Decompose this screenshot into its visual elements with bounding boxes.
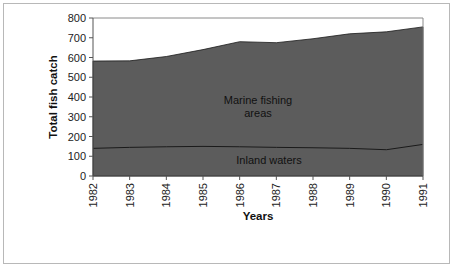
y-tick-label: 800	[68, 12, 86, 24]
x-tick-label: 1982	[87, 183, 99, 207]
marine-area-label-line2: areas	[244, 107, 272, 119]
x-axis-title: Years	[243, 210, 274, 222]
y-tick-label: 400	[68, 91, 86, 103]
x-tick-label: 1984	[160, 183, 172, 207]
x-tick-label: 1987	[270, 183, 282, 207]
y-tick-label: 200	[68, 131, 86, 143]
x-tick-label: 1990	[380, 183, 392, 207]
inland-area-label: Inland waters	[236, 154, 302, 166]
y-axis: 0100200300400500600700800	[68, 12, 93, 182]
y-tick-label: 100	[68, 150, 86, 162]
marine-area-label-line1: Marine fishing	[224, 94, 292, 106]
x-tick-label: 1985	[197, 183, 209, 207]
y-tick-label: 600	[68, 52, 86, 64]
y-tick-label: 500	[68, 71, 86, 83]
x-tick-label: 1988	[307, 183, 319, 207]
y-axis-title: Total fish catch	[47, 55, 59, 139]
y-tick-label: 0	[80, 170, 86, 182]
stacked-area-chart: 0100200300400500600700800 19821983198419…	[0, 0, 456, 272]
x-tick-label: 1989	[344, 183, 356, 207]
y-tick-label: 300	[68, 111, 86, 123]
x-axis: 1982198319841985198619871988198919901991	[87, 176, 429, 207]
y-tick-label: 700	[68, 32, 86, 44]
x-tick-label: 1983	[124, 183, 136, 207]
x-tick-label: 1986	[234, 183, 246, 207]
x-tick-label: 1991	[417, 183, 429, 207]
